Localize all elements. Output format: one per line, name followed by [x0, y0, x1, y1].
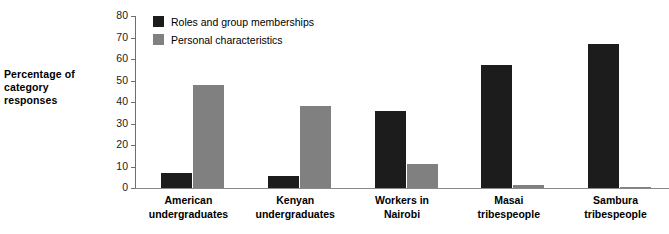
x-axis-label: Kenyanundergraduates — [242, 194, 349, 221]
bar — [300, 106, 331, 188]
x-axis-label-line: Nairobi — [349, 208, 456, 222]
bar — [407, 164, 438, 188]
y-tick-label: 40 — [116, 95, 128, 108]
bar — [375, 111, 406, 188]
bar-chart: Percentage of category responses 0102030… — [0, 0, 669, 234]
chart-legend: Roles and group membershipsPersonal char… — [153, 14, 314, 50]
bar — [620, 187, 651, 188]
x-axis-label-line: tribespeople — [562, 208, 669, 222]
x-axis-line — [135, 188, 669, 189]
x-axis-label-line: Workers in — [349, 194, 456, 208]
y-axis: 01020304050607080 — [100, 16, 135, 188]
x-axis-label: Workers inNairobi — [349, 194, 456, 221]
bar-group — [481, 16, 544, 188]
y-tick-label: 30 — [116, 117, 128, 130]
bar — [481, 65, 512, 188]
x-axis-label: Masaitribespeople — [455, 194, 562, 221]
bar — [513, 185, 544, 188]
legend-swatch-icon — [153, 16, 164, 27]
x-axis-label-line: undergraduates — [135, 208, 242, 222]
x-axis-label-line: tribespeople — [455, 208, 562, 222]
bar — [193, 85, 224, 188]
y-axis-title-line-2: category responses — [4, 81, 57, 106]
x-axis-label-line: Kenyan — [242, 194, 349, 208]
y-tick-label: 50 — [116, 74, 128, 87]
bar-group — [588, 16, 651, 188]
bar — [268, 176, 299, 188]
x-axis-labels: AmericanundergraduatesKenyanundergraduat… — [135, 194, 669, 232]
legend-item: Roles and group memberships — [153, 14, 314, 29]
legend-label: Roles and group memberships — [171, 16, 314, 28]
bar — [161, 173, 192, 188]
x-axis-label: Samburatribespeople — [562, 194, 669, 221]
bar-group — [375, 16, 438, 188]
y-axis-title: Percentage of category responses — [4, 68, 104, 107]
bar — [588, 44, 619, 188]
x-axis-label: Americanundergraduates — [135, 194, 242, 221]
y-tick-label: 10 — [116, 160, 128, 173]
legend-label: Personal characteristics — [171, 34, 282, 46]
y-tick-label: 60 — [116, 52, 128, 65]
x-axis-label-line: American — [135, 194, 242, 208]
x-axis-label-line: Sambura — [562, 194, 669, 208]
y-tick-label: 20 — [116, 138, 128, 151]
y-tick-label: 0 — [122, 181, 128, 194]
y-tick-label: 70 — [116, 31, 128, 44]
x-axis-label-line: Masai — [455, 194, 562, 208]
y-tick-label: 80 — [116, 9, 128, 22]
x-axis-label-line: undergraduates — [242, 208, 349, 222]
legend-item: Personal characteristics — [153, 32, 314, 47]
y-axis-title-line-1: Percentage of — [4, 68, 75, 80]
legend-swatch-icon — [153, 34, 164, 45]
